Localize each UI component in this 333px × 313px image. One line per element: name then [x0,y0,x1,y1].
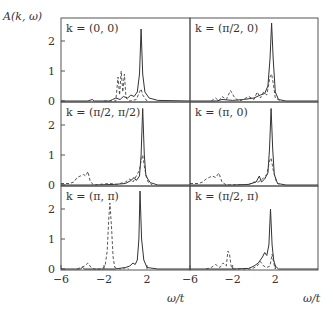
spectral-function-figure: A(k, ω) k = (0, 0)k = (π/2, 0)k = (π/2, … [0,0,333,313]
y-tick-label: 2 [48,203,55,216]
panel-label: k = (π/2, 0) [195,22,258,35]
panel-label: k = (π, 0) [195,106,248,119]
solid-curve [190,109,318,186]
x-tick-labels: −6−22−6−22 [53,273,279,286]
x-axis-title-left: ω/t [167,292,185,305]
dashed-curve [206,251,275,269]
x-tick-label: 2 [144,273,151,286]
x-tick-label: −6 [182,273,198,286]
panel-label: k = (π, π) [66,190,119,203]
panel: k = (π, π) [61,186,190,270]
y-tick-label: 0 [48,95,55,108]
y-tick-label: 2 [48,35,55,48]
x-axis-title-right: ω/t [303,292,321,305]
y-tick-label: 1 [48,233,55,246]
y-tick-label: 2 [48,119,55,132]
x-tick-label: −6 [53,273,69,286]
panel: k = (π/2, 0) [190,18,318,102]
panel: k = (0, 0) [61,18,190,102]
x-tick-label: 2 [272,273,279,286]
panels-grid: k = (0, 0)k = (π/2, 0)k = (π/2, π/2)k = … [61,18,318,270]
solid-curve [61,109,190,186]
panel: k = (π/2, π/2) [61,102,190,186]
panel: k = (π, 0) [190,102,318,186]
y-tick-label: 0 [48,179,55,192]
panel-label: k = (π/2, π/2) [66,106,140,119]
y-tick-label: 1 [48,65,55,78]
dashed-curve [61,155,152,185]
panel-label: k = (π/2, π) [195,190,259,203]
dashed-curve [104,71,147,101]
dashed-curve [190,158,280,185]
dashed-curve [77,203,129,269]
x-tick-label: −2 [225,273,241,286]
y-axis-title: A(k, ω) [2,10,42,23]
panel: k = (π/2, π) [190,186,318,270]
x-tick-label: −2 [96,273,112,286]
solid-curve [190,209,318,269]
panel-label: k = (0, 0) [66,22,118,35]
y-tick-labels: 012012012 [48,35,55,276]
solid-curve [61,29,190,101]
y-tick-label: 1 [48,149,55,162]
dashed-curve [211,74,280,101]
